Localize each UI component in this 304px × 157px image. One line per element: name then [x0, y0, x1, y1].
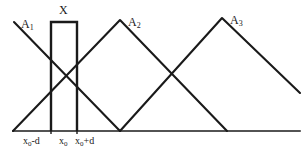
axis-label-x0-minus-d: x0-d: [23, 136, 40, 146]
fuzzy-membership-figure: A1 A2 A3 X x0-d x0 x0+d: [0, 0, 304, 157]
label-set-a1: A1: [21, 18, 34, 30]
label-set-a2: A2: [128, 16, 141, 28]
label-crisp-set-x: X: [59, 4, 68, 16]
axis-label-x0: x0: [59, 136, 68, 146]
label-set-a3: A3: [230, 14, 243, 26]
membership-triangle-a2: [13, 20, 227, 131]
figure-canvas: [0, 0, 304, 157]
crisp-interval-rectangle-x: [51, 22, 77, 131]
axis-label-x0-plus-d: x0+d: [75, 136, 94, 146]
